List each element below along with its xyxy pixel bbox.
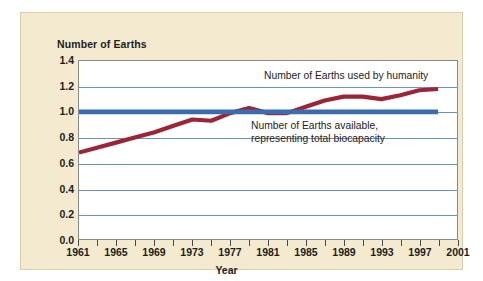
- x-axis-tick-label: 1993: [370, 246, 393, 258]
- x-axis-tick-label: 1981: [256, 246, 279, 258]
- x-axis-tick-label: 1965: [104, 246, 127, 258]
- footprint-annotation-line-1: Number of Earths used by humanity: [264, 70, 428, 83]
- y-axis-tick-label: 0.8: [59, 131, 74, 143]
- series-layer: [79, 61, 457, 239]
- y-axis-tick-labels: 0.00.20.40.60.81.01.21.4: [41, 60, 74, 240]
- x-axis-tick-label: 2001: [446, 246, 469, 258]
- x-axis-tick-label: 1969: [142, 246, 165, 258]
- y-axis-title: Number of Earths: [57, 38, 147, 50]
- x-axis-tick-labels: 1961196519691973197719811985198919931997…: [21, 246, 483, 260]
- x-axis-tick-label: 1985: [294, 246, 317, 258]
- biocapacity-annotation: Number of Earths available, representing…: [251, 120, 385, 145]
- x-axis-tick-label: 1973: [180, 246, 203, 258]
- biocapacity-annotation-line-1: Number of Earths available,: [251, 120, 385, 133]
- x-axis-tick-label: 1989: [332, 246, 355, 258]
- y-axis-tick-label: 0.6: [59, 157, 74, 169]
- y-axis-tick-label: 1.4: [59, 54, 74, 66]
- chart-figure: Number of Earths 0.00.20.40.60.81.01.21.…: [0, 0, 483, 281]
- x-axis-tick-label: 1961: [66, 246, 89, 258]
- x-axis-title: Year: [21, 264, 483, 276]
- y-axis-tick-label: 0.0: [59, 234, 74, 246]
- y-axis-tick-label: 1.0: [59, 105, 74, 117]
- x-axis-tick-label: 1997: [408, 246, 431, 258]
- biocapacity-annotation-line-2: representing total biocapacity: [251, 133, 385, 146]
- footprint-annotation: Number of Earths used by humanity: [264, 70, 428, 83]
- plot-area: [78, 60, 458, 240]
- x-axis-tick-label: 1977: [218, 246, 241, 258]
- x-axis-title-text: Year: [215, 264, 237, 276]
- y-axis-tick-label: 0.2: [59, 208, 74, 220]
- y-axis-tick-label: 0.4: [59, 183, 74, 195]
- y-axis-tick-label: 1.2: [59, 80, 74, 92]
- figure-panel: Number of Earths 0.00.20.40.60.81.01.21.…: [20, 12, 463, 270]
